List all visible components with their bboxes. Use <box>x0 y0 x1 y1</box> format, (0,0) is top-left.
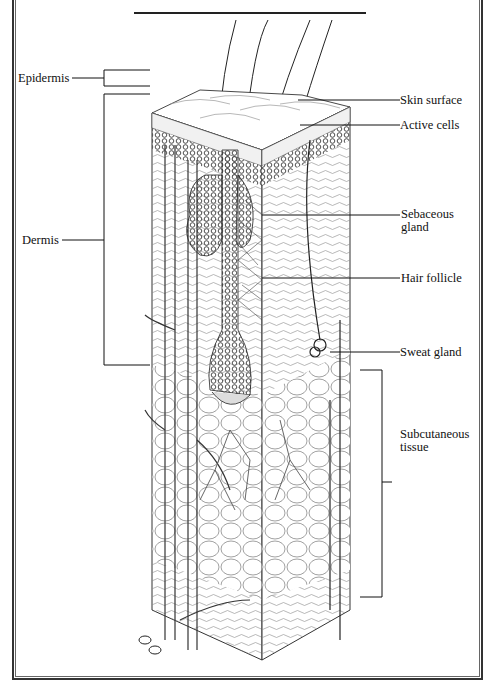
label-sebaceous-gland-line2: gland <box>401 221 429 234</box>
right-face <box>262 107 350 660</box>
label-active-cells: Active cells <box>400 119 459 132</box>
label-skin-surface: Skin surface <box>400 94 462 107</box>
label-dermis: Dermis <box>22 234 59 247</box>
label-epidermis: Epidermis <box>18 72 69 85</box>
vessel-ends <box>139 636 161 654</box>
label-sweat-gland: Sweat gland <box>400 346 461 359</box>
label-subcutaneous-tissue-line2: tissue <box>400 441 428 454</box>
label-hair-follicle: Hair follicle <box>401 272 462 285</box>
